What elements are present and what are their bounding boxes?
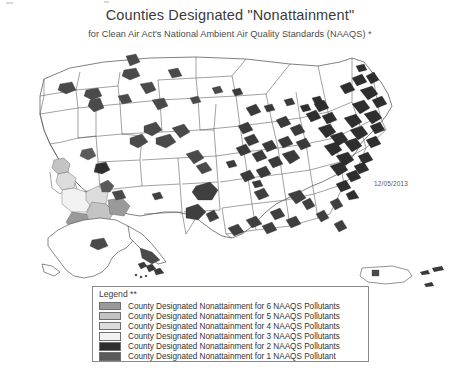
legend-label-5: County Designated Nonattainment for 5 NA… — [128, 312, 340, 321]
list-item[interactable]: County Designated Nonattainment for 5 NA… — [99, 311, 366, 321]
legend-swatch-6 — [99, 302, 121, 310]
legend-items: County Designated Nonattainment for 6 NA… — [99, 301, 366, 362]
legend-label-2: County Designated Nonattainment for 2 NA… — [128, 342, 340, 351]
list-item[interactable]: County Designated Nonattainment for 3 NA… — [99, 331, 366, 341]
scan-artifact — [104, 1, 109, 3]
list-item[interactable]: County Designated Nonattainment for 2 NA… — [99, 341, 366, 351]
scan-artifact — [6, 2, 13, 4]
legend-label-1: County Designated Nonattainment for 1 NA… — [128, 352, 336, 361]
legend-label-4: County Designated Nonattainment for 4 NA… — [128, 322, 340, 331]
legend-swatch-2 — [99, 342, 121, 350]
puerto-rico-outline — [360, 266, 412, 284]
virgin-islands-inset — [420, 266, 444, 287]
legend-swatch-4 — [99, 322, 121, 330]
puerto-rico-nonattainment — [372, 270, 379, 276]
page-title: Counties Designated "Nonattainment" — [0, 7, 460, 23]
alaska-aleutians — [42, 264, 60, 276]
list-item[interactable]: County Designated Nonattainment for 4 NA… — [99, 321, 366, 331]
hawaii-inset — [135, 262, 164, 278]
legend-swatch-3 — [99, 332, 121, 340]
map-canvas[interactable] — [0, 42, 460, 310]
alaska-outline — [48, 218, 134, 278]
legend-swatch-5 — [99, 312, 121, 320]
map-page: Counties Designated "Nonattainment" for … — [0, 0, 460, 384]
legend-label-6: County Designated Nonattainment for 6 NA… — [128, 302, 340, 311]
legend: Legend ** County Designated Nonattainmen… — [92, 286, 369, 362]
legend-swatch-1 — [99, 352, 121, 360]
list-item[interactable]: County Designated Nonattainment for 1 NA… — [99, 351, 366, 361]
page-subtitle: for Clean Air Act's National Ambient Air… — [0, 29, 460, 39]
legend-heading: Legend ** — [99, 289, 137, 299]
puerto-rico-inset — [360, 266, 412, 284]
list-item[interactable]: County Designated Nonattainment for 6 NA… — [99, 301, 366, 311]
us-map-svg[interactable] — [0, 42, 460, 310]
legend-label-3: County Designated Nonattainment for 3 NA… — [128, 332, 340, 341]
